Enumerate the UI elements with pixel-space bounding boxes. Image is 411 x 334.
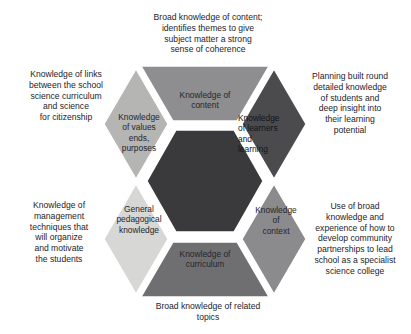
hexagon-knowledge-diagram: Knowledge of content Knowledge of learne… [0,0,411,334]
annotation-general-pedagogical-knowledge: Knowledge of management techniques that … [4,200,114,265]
annotation-context: Use of broad knowledge and experience of… [300,201,410,277]
annotation-learners-and-learning: Planning built round detailed knowledge … [292,71,408,136]
annotation-values-ends-purposes: Knowledge of links between the school sc… [6,69,126,123]
annotation-content: Broad knowledge of content; identifies t… [124,12,292,55]
center-hexagon-shape[interactable] [147,130,263,232]
annotation-curriculum: Broad knowledge of related topics [124,301,292,323]
